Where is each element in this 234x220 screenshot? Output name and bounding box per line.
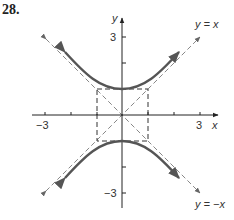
asymptote-label-y-eq-x: y = x <box>194 18 219 30</box>
y-axis-label: y <box>111 12 119 24</box>
y-tick-label-neg3: −3 <box>104 187 117 199</box>
x-tick-label-neg3: −3 <box>36 119 49 131</box>
hyperbola-graph: y 3 −3 −3 3 x y = x y = −x <box>0 0 234 220</box>
x-axis-label: x <box>211 119 218 131</box>
y-tick-label-3: 3 <box>110 31 116 43</box>
asymptote-y-eq-neg-x <box>46 39 200 193</box>
asymptote-label-y-eq-neg-x: y = −x <box>194 198 225 210</box>
x-tick-label-3: 3 <box>196 119 202 131</box>
asymptote-y-eq-x <box>46 37 200 191</box>
